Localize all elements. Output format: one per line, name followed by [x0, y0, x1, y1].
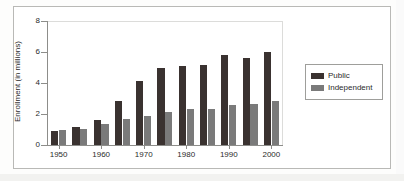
bar-public-1970 — [136, 81, 143, 145]
y-axis-tick-label: 0 — [18, 141, 40, 149]
bar-independent-2000 — [272, 101, 279, 145]
x-axis-tick — [101, 145, 102, 149]
bar-independent-1960 — [101, 124, 108, 145]
y-axis-tick-label: 4 — [18, 79, 40, 87]
legend-swatch-independent-icon — [311, 85, 324, 91]
x-axis-tick — [144, 145, 145, 149]
bar-public-1975 — [157, 68, 164, 145]
bar-group — [176, 21, 197, 145]
bar-group — [133, 21, 154, 145]
bar-independent-1990 — [229, 105, 236, 145]
legend-item-public: Public — [311, 70, 378, 82]
bar-public-1960 — [94, 120, 101, 145]
bar-public-1950 — [51, 131, 58, 145]
y-axis-tick-label: 8 — [18, 17, 40, 25]
legend-swatch-public-icon — [311, 73, 324, 79]
bar-group — [69, 21, 90, 145]
bar-independent-1985 — [208, 109, 215, 145]
bar-group — [48, 21, 69, 145]
bar-public-1995 — [243, 58, 250, 145]
bar-group — [112, 21, 133, 145]
legend-label-independent: Independent — [328, 84, 373, 92]
y-axis-tick-label: 2 — [18, 110, 40, 118]
bar-public-2000 — [264, 52, 271, 145]
bar-independent-1975 — [165, 112, 172, 145]
x-axis-tick — [271, 145, 272, 149]
legend-item-independent: Independent — [311, 82, 378, 94]
bar-independent-1955 — [80, 129, 87, 145]
x-axis-tick-label: 1970 — [124, 151, 164, 159]
x-axis-tick — [229, 145, 230, 149]
x-axis-tick-label: 1950 — [39, 151, 79, 159]
bar-independent-1965 — [123, 119, 130, 145]
bar-public-1980 — [179, 66, 186, 145]
page-edge-bottom — [0, 174, 404, 181]
bar-group — [91, 21, 112, 145]
bar-independent-1970 — [144, 116, 151, 145]
bar-public-1990 — [221, 55, 228, 145]
chart-legend: Public Independent — [305, 64, 383, 100]
legend-label-public: Public — [328, 72, 350, 80]
bar-independent-1950 — [59, 130, 66, 146]
y-axis-tick-label: 6 — [18, 48, 40, 56]
bar-group — [218, 21, 239, 145]
bar-group — [261, 21, 282, 145]
bar-independent-1980 — [187, 109, 194, 145]
bar-group — [239, 21, 260, 145]
x-axis-tick-label: 1980 — [166, 151, 206, 159]
bars-layer — [48, 21, 282, 145]
page-edge-right — [396, 0, 404, 181]
bar-independent-1995 — [250, 104, 257, 145]
chart-figure: Enrollment (in millions) 02468 195019601… — [0, 0, 404, 181]
bar-public-1955 — [72, 127, 79, 145]
x-axis-tick — [59, 145, 60, 149]
x-axis-tick — [186, 145, 187, 149]
bar-public-1965 — [115, 101, 122, 145]
bar-group — [154, 21, 175, 145]
bar-group — [197, 21, 218, 145]
x-axis-tick-label: 1990 — [209, 151, 249, 159]
x-axis-tick-label: 2000 — [251, 151, 291, 159]
x-axis-tick-label: 1960 — [81, 151, 121, 159]
bar-public-1985 — [200, 65, 207, 145]
